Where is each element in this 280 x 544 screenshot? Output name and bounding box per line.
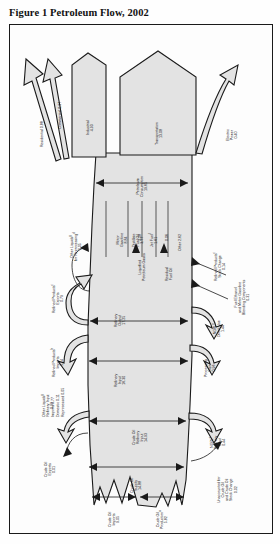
label-ngpl-direct-use: NGPLe Direct Use 1.44 bbox=[213, 320, 225, 337]
ethanol-blending-arrow bbox=[191, 279, 200, 288]
label-crude-oil-supply: Crude Oil Supply 14.88 bbox=[130, 478, 142, 493]
label-other-products: Other 2.62 bbox=[178, 234, 182, 251]
label-petroleum-consumption: Petroleum Consumption 19.65 bbox=[136, 176, 148, 197]
label-liquefied-petroleum-gases: Liquefied Petroleum Gases bbox=[138, 253, 146, 281]
label-crude-oil-exports: Crude Oil Exports 0.01 bbox=[44, 462, 56, 477]
main-trunk-flow bbox=[88, 153, 192, 507]
label-motor-gasoline: Motor Gasoline 8.84 bbox=[116, 233, 128, 247]
label-jet-fuel: Jet Fuelf 1.61 bbox=[150, 233, 158, 247]
label-other-liquids-domestic: Domestic 0.11 bbox=[56, 394, 60, 417]
industrial-flow bbox=[72, 53, 106, 157]
figure-container: Figure 1 Petroleum Flow, 2002 .fl{fill:#… bbox=[0, 0, 280, 544]
label-industrial: Industrial 4.93 bbox=[86, 120, 94, 135]
label-residual-value: 0.06 bbox=[165, 234, 169, 241]
label-refined-products-exports: Refined Productsc Exports 0.79 bbox=[52, 284, 64, 313]
label-refinery-output: Refinery Output 17.25 bbox=[114, 314, 126, 327]
label-crude-oil-production: Crude Oil Productiona 5.82 bbox=[156, 510, 168, 529]
label-crude-oil-refinery-input: Crude Oil Refinery Input 14.93 bbox=[132, 430, 149, 445]
diagram-frame: .fl{fill:#e3e3e3;stroke:#1a1a1a;stroke-w… bbox=[9, 24, 273, 534]
page-title: Figure 1 Petroleum Flow, 2002 bbox=[9, 7, 149, 18]
label-refinery-input: Refinery Input 16.30 bbox=[114, 374, 126, 387]
label-residual-fuel-oil: Residual Fuel Oil bbox=[165, 267, 173, 281]
label-other-liquids-reprocessing: Other Liquidsg for Reprocessingd 0.05 bbox=[70, 232, 82, 261]
label-commercial: Commercial 0.37 bbox=[58, 102, 62, 129]
crude-oil-imports-measure bbox=[92, 493, 136, 501]
label-ngpl-refinery-input: NGPLe Refinery Input 0.44 bbox=[210, 436, 227, 449]
label-refined-products-stock-change: Refined Productsc Stock Change 0.14 bbox=[214, 252, 226, 281]
label-processing-gain: Processing Gain 0.96 bbox=[204, 359, 216, 377]
crude-oil-exports-arrow bbox=[63, 447, 72, 457]
label-refined-products-imports: Refined Productsb Imports 1.54 bbox=[52, 348, 64, 377]
label-transportation: Transportation 13.08 bbox=[155, 122, 163, 145]
label-ethanol-blending-components: Fuel Ethanol and Motor Gasoline Blending… bbox=[234, 280, 251, 315]
refined-products-stock-change-arrow bbox=[191, 257, 200, 266]
label-other-liquids-reprocessed: Reprocessed 0.05 bbox=[61, 388, 65, 417]
label-other-liquids-imports: Imports 0.77 bbox=[51, 397, 55, 417]
label-unaccounted-crude-oil: Unaccounted for Crude Oil and Crude Oil … bbox=[217, 477, 238, 503]
label-electric-power: Electric Power 0.40 bbox=[226, 129, 238, 141]
label-crude-oil-imports: Crude Oil Imports 9.05 bbox=[108, 512, 120, 527]
label-lpg-value: 2.18 bbox=[138, 234, 142, 241]
label-residential: Residential 0.88 bbox=[40, 121, 44, 147]
